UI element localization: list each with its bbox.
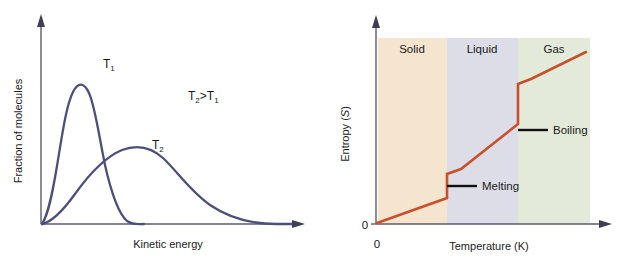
right-y-axis-label: Entropy (S) bbox=[339, 106, 351, 162]
left-x-axis-label: Kinetic energy bbox=[133, 238, 203, 250]
curve-label-t1: T1 bbox=[103, 57, 115, 73]
inequality-annotation: T2>T1 bbox=[188, 89, 219, 105]
curve-label-t2: T2 bbox=[152, 138, 164, 154]
phase-band-solid bbox=[378, 38, 447, 224]
melting-annotation-label: Melting bbox=[482, 180, 519, 192]
maxwell-boltzmann-chart: T1 T2 T2>T1 Kinetic energy Fraction of m… bbox=[0, 0, 314, 262]
t1-distribution-curve bbox=[42, 85, 144, 224]
left-chart-svg: T1 T2 T2>T1 Kinetic energy Fraction of m… bbox=[0, 0, 314, 262]
boiling-annotation-label: Boiling bbox=[553, 124, 588, 136]
left-y-axis-label: Fraction of molecules bbox=[12, 78, 24, 183]
entropy-temperature-chart: Solid Liquid Gas Melting Boiling bbox=[314, 0, 627, 262]
phase-band-label-liquid: Liquid bbox=[467, 43, 498, 55]
right-chart-svg: Solid Liquid Gas Melting Boiling bbox=[314, 0, 627, 262]
phase-band-label-solid: Solid bbox=[399, 43, 425, 55]
right-x-axis-label: Temperature (K) bbox=[449, 240, 528, 252]
y-axis-zero-label: 0 bbox=[362, 219, 368, 231]
x-axis-zero-label: 0 bbox=[374, 238, 380, 250]
figure-container: T1 T2 T2>T1 Kinetic energy Fraction of m… bbox=[0, 0, 627, 262]
left-y-axis bbox=[37, 14, 45, 224]
phase-band-label-gas: Gas bbox=[543, 43, 564, 55]
t2-distribution-curve bbox=[42, 147, 292, 224]
